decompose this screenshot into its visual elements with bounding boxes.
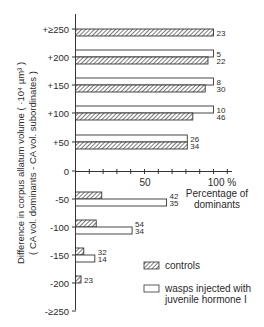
y-tick-label: -100: [50, 222, 69, 233]
y-tick-label: +200: [48, 52, 69, 63]
y-tick-label: -≥250: [45, 306, 69, 317]
bar-n-label: 35: [170, 199, 179, 208]
y-tick-label: +≥250: [42, 24, 69, 35]
bar-injected: [76, 78, 214, 85]
bar-controls: [76, 85, 206, 92]
bar-injected: [76, 106, 214, 113]
y-axis-label-line2: ( CA vol. dominants - CA vol. subordinat…: [27, 71, 38, 255]
bar-injected: [76, 255, 95, 262]
y-axis-label-line1: Difference in corpus allatum volume ( ·1…: [15, 62, 26, 264]
bar-chart: +≥250+200+150+100+500-50-100-150-200-≥25…: [0, 0, 264, 327]
bar-controls: [76, 113, 193, 120]
y-tick-label: -200: [50, 278, 69, 289]
y-tick-label: +100: [48, 108, 69, 119]
bars: 235228301046263442355434321423: [76, 29, 226, 285]
bar-n-label: 22: [217, 57, 226, 66]
y-tick-label: -50: [55, 194, 69, 205]
x-tick-label-100: 100 %: [208, 177, 236, 188]
legend-swatch-injected: [144, 285, 159, 292]
x-axis-label-line1: Percentage of: [186, 188, 248, 199]
bar-controls: [76, 276, 82, 283]
y-tick-label: +150: [48, 80, 69, 91]
bar-n-label: 23: [217, 29, 226, 38]
bar-controls: [76, 57, 208, 64]
bar-controls: [76, 220, 97, 227]
y-tick-label: -150: [50, 250, 69, 261]
y-tick-label: 0: [64, 166, 69, 177]
y-axis-ticks: +≥250+200+150+100+500-50-100-150-200-≥25…: [42, 24, 76, 317]
bar-n-label: 46: [217, 113, 226, 122]
bar-n-label: 23: [84, 276, 93, 285]
legend: controls wasps injected with juvenile ho…: [144, 260, 251, 305]
bar-n-label: 34: [190, 142, 199, 151]
legend-label-injected-line1: wasps injected with: [164, 283, 251, 294]
bar-injected: [76, 199, 167, 206]
legend-swatch-controls: [144, 262, 159, 269]
bar-n-label: 30: [217, 85, 226, 94]
x-axis-label-line2: dominants: [194, 199, 240, 210]
bar-controls: [76, 192, 102, 199]
legend-label-controls: controls: [165, 260, 200, 271]
bar-injected: [76, 135, 188, 142]
bar-injected: [76, 50, 214, 57]
bar-controls: [76, 29, 214, 36]
bar-injected: [76, 227, 133, 234]
bar-controls: [76, 248, 84, 255]
bar-n-label: 34: [135, 227, 144, 236]
bar-n-label: 14: [98, 255, 107, 264]
x-tick-label-50: 50: [139, 177, 151, 188]
legend-label-injected-line2: juvenile hormone I: [164, 294, 247, 305]
y-tick-label: +50: [53, 137, 69, 148]
bar-controls: [76, 142, 188, 149]
